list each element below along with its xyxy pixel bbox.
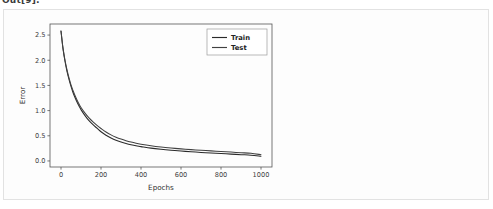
notebook-out-label: Out[9]: bbox=[2, 0, 40, 5]
x-axis-ticks: 02004006008001000 bbox=[59, 167, 269, 179]
y-tick-label: 1.0 bbox=[35, 107, 46, 115]
y-axis-label: Error bbox=[18, 87, 27, 105]
x-tick-label: 200 bbox=[95, 171, 108, 179]
x-tick-label: 800 bbox=[215, 171, 228, 179]
y-tick-label: 2.0 bbox=[35, 57, 46, 65]
matplotlib-figure: 0.00.51.01.52.02.5 02004006008001000 Epo… bbox=[12, 13, 312, 198]
legend-label-test: Test bbox=[231, 44, 247, 52]
x-tick-label: 400 bbox=[135, 171, 148, 179]
x-tick-label: 600 bbox=[175, 171, 188, 179]
legend-label-train: Train bbox=[231, 34, 250, 42]
y-axis-ticks: 0.00.51.01.52.02.5 bbox=[35, 31, 50, 165]
y-tick-label: 0.5 bbox=[35, 132, 46, 140]
y-tick-label: 0.0 bbox=[35, 157, 46, 165]
x-axis-label: Epochs bbox=[148, 183, 174, 192]
chart-legend[interactable]: TrainTest bbox=[207, 29, 267, 55]
x-tick-label: 1000 bbox=[253, 171, 270, 179]
y-tick-label: 2.5 bbox=[35, 31, 46, 39]
y-tick-label: 1.5 bbox=[35, 82, 46, 90]
error-vs-epochs-line-chart: 0.00.51.01.52.02.5 02004006008001000 Epo… bbox=[12, 13, 312, 198]
x-tick-label: 0 bbox=[59, 171, 63, 179]
notebook-output-card: 0.00.51.01.52.02.5 02004006008001000 Epo… bbox=[3, 9, 489, 200]
